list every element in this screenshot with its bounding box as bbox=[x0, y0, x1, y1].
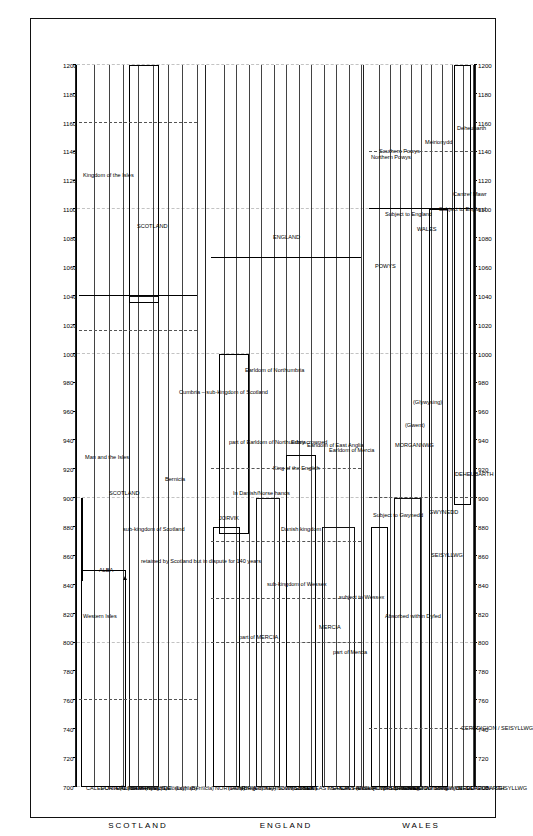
axis-tick-label: 820 bbox=[63, 611, 73, 618]
annotation-wales-13: DEHEUBARTH bbox=[455, 472, 493, 478]
sub-divider-0 bbox=[79, 699, 197, 700]
axis-tick-label: 760 bbox=[63, 697, 73, 704]
rotated-chart-container: 7007007207207407407607607807808008008208… bbox=[69, 47, 519, 827]
annotation-wales-0: Subject to Gwynedd bbox=[373, 513, 423, 519]
axis-tick-label: 860 bbox=[63, 553, 73, 560]
scotland-1040-line bbox=[79, 295, 197, 296]
sub-divider-7 bbox=[369, 497, 473, 498]
section-divider-1 bbox=[205, 65, 206, 787]
sub-divider-8 bbox=[369, 151, 473, 152]
annotation-england-14: ENGLAND bbox=[273, 235, 300, 241]
annotation-england-3: Earldom of Northumbria bbox=[245, 368, 304, 374]
annotation-england-10: part of Mercia bbox=[333, 650, 367, 656]
axis-tick-label: 1060 bbox=[478, 264, 492, 271]
axis-tick-label: 960 bbox=[63, 408, 73, 415]
sub-divider-6 bbox=[369, 728, 473, 729]
bar-gwynedd bbox=[429, 209, 448, 787]
axis-tick-label: 780 bbox=[478, 668, 488, 675]
row-rule bbox=[182, 65, 183, 787]
axis-tick-label: 1020 bbox=[478, 322, 492, 329]
annotation-scotland-0: Western Isles bbox=[83, 614, 117, 620]
axis-tick-label: 720 bbox=[478, 755, 488, 762]
bar-mercia bbox=[322, 527, 355, 787]
bar-strathclyde bbox=[129, 296, 160, 787]
annotation-wales-6: Subject to England bbox=[385, 212, 432, 218]
annotation-england-0: JORVIK bbox=[219, 516, 239, 522]
annotation-england-9: MERCIA bbox=[319, 625, 341, 631]
axis-tick-label: 700 bbox=[63, 784, 73, 791]
axis-tick-label: 820 bbox=[478, 611, 488, 618]
bar-cap-alba bbox=[81, 498, 83, 580]
annotation-wales-3: (Gwent) bbox=[405, 423, 425, 429]
axis-tick-label: 720 bbox=[63, 755, 73, 762]
section-label-scotland: SCOTLAND bbox=[108, 821, 168, 830]
annotation-scotland-2: Kingdom of the Isles bbox=[83, 173, 134, 179]
axis-tick-label: 980 bbox=[478, 379, 488, 386]
bar-wessex bbox=[286, 455, 316, 787]
chart-frame: 7007007207207407407607607807808008008208… bbox=[30, 18, 496, 818]
annotation-england-13: Edwy crowned bbox=[291, 440, 327, 446]
sub-divider-2 bbox=[211, 598, 361, 599]
section-label-wales: WALES bbox=[402, 821, 440, 830]
axis-tick-label: 980 bbox=[63, 379, 73, 386]
migration-arrow bbox=[125, 578, 126, 657]
bar-picts bbox=[81, 570, 126, 787]
row-rule bbox=[361, 65, 362, 787]
annotation-wales-16: WALES bbox=[417, 227, 436, 233]
axis-tick-label: 1120 bbox=[478, 177, 491, 184]
axis-tick-label: 1200 bbox=[478, 62, 492, 69]
axis-tick-label: 1040 bbox=[478, 293, 492, 300]
annotation-scotland-1: Man and the Isles bbox=[85, 455, 129, 461]
section-divider-0 bbox=[75, 65, 76, 787]
axis-tick-label: 960 bbox=[478, 408, 488, 415]
sub-divider-1 bbox=[211, 642, 361, 643]
axis-tick-label: 880 bbox=[63, 524, 73, 531]
annotation-wales-17: Subject to England bbox=[439, 207, 486, 213]
annotation-scotland-3: ALBA bbox=[99, 568, 113, 574]
bar-northumbria bbox=[213, 527, 240, 787]
axis-tick-label: 900 bbox=[478, 495, 488, 502]
axis-tick-label: 1180 bbox=[478, 91, 491, 98]
row-rule bbox=[390, 65, 391, 787]
bar-powys bbox=[371, 527, 388, 787]
annotation-wales-12: SEISYLLWG bbox=[431, 553, 463, 559]
annotation-wales-14: GWYNEDD bbox=[429, 510, 458, 516]
annotation-england-8: Earldom of Mercia bbox=[329, 448, 374, 454]
annotation-scotland-6: retained by Scotland but in dispute for … bbox=[141, 559, 261, 565]
axis-tick-label: 780 bbox=[63, 668, 73, 675]
axis-tick-label: 840 bbox=[478, 582, 488, 589]
annotation-wales-10: Cantref Mawr bbox=[453, 192, 487, 198]
axis-tick-label: 840 bbox=[63, 582, 73, 589]
axis-tick-label: 880 bbox=[478, 524, 488, 531]
annotation-england-4: part of MERCIA bbox=[239, 635, 278, 641]
annotation-scotland-4: SCOTLAND bbox=[109, 491, 139, 497]
row-label: (Bernicia) bbox=[190, 786, 214, 792]
sub-divider-5 bbox=[79, 330, 197, 331]
bar-gwent-glywysing bbox=[394, 498, 421, 787]
annotation-wales-2: MORGANNWG bbox=[395, 443, 434, 449]
section-label-england: ENGLAND bbox=[260, 821, 313, 830]
axis-tick-label: 800 bbox=[63, 639, 73, 646]
bar-scotland-late bbox=[129, 65, 160, 303]
axis-tick-label: 800 bbox=[478, 639, 488, 646]
annotation-england-6: Danish kingdom bbox=[281, 527, 321, 533]
annotation-scotland-7: Bernicia bbox=[165, 477, 185, 483]
row-rule bbox=[473, 65, 474, 787]
axis-tick-label: 920 bbox=[63, 466, 73, 473]
annotation-wales-9: Meirionydd bbox=[425, 140, 452, 146]
england-1066-line bbox=[211, 258, 361, 259]
section-divider-3 bbox=[475, 65, 476, 787]
sub-divider-3 bbox=[211, 541, 361, 542]
annotation-wales-1: Absorbed within Dyfed bbox=[385, 614, 441, 620]
axis-tick-label: 740 bbox=[63, 726, 73, 733]
annotation-wales-4: (Glywysing) bbox=[413, 400, 442, 406]
annotation-wales-7: Northern Powys bbox=[371, 155, 411, 161]
axis-tick-label: 900 bbox=[63, 495, 73, 502]
annotation-england-1: In Danish/Norse hands bbox=[233, 491, 290, 497]
annotation-scotland-9: SCOTLAND bbox=[137, 224, 167, 230]
axis-tick-label: 1000 bbox=[478, 351, 492, 358]
row-rule bbox=[168, 65, 169, 787]
row-rule bbox=[452, 65, 453, 787]
annotation-wales-11: Deheubarth bbox=[457, 126, 486, 132]
